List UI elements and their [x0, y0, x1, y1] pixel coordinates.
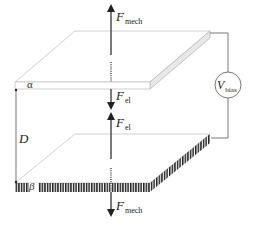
gap-dimension — [15, 89, 17, 183]
top-plate-alpha — [15, 31, 210, 89]
bottom-plate-beta — [15, 134, 210, 192]
label-f-mech-bottom: Fmech — [116, 199, 142, 215]
label-f-el-top: Fel — [116, 89, 131, 105]
label-beta: β — [29, 181, 34, 192]
label-gap-d: D — [19, 132, 28, 145]
label-alpha: α — [27, 79, 33, 90]
label-f-el-bottom: Fel — [116, 116, 131, 132]
label-v-bias: Vbias — [217, 79, 237, 94]
diagram-canvas: Fmech Fel Fel Fmech Vbias D α β — [0, 0, 253, 228]
label-f-mech-top: Fmech — [116, 10, 142, 26]
